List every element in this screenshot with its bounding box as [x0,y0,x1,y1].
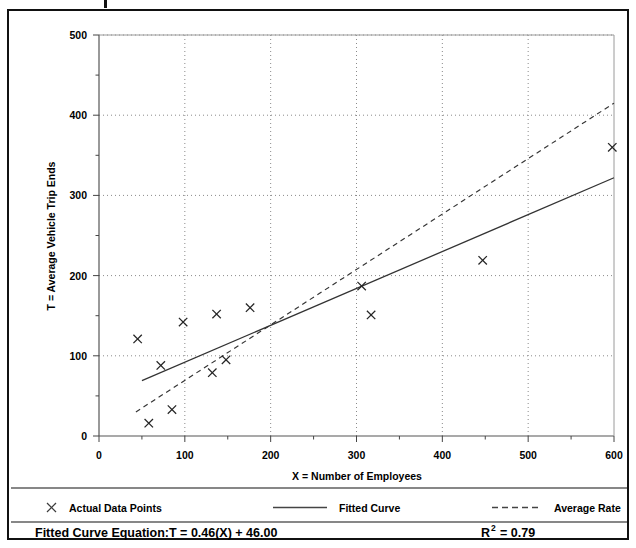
y-axis-title: T = Average Vehicle Trip Ends [45,161,57,310]
x-tick-label: 300 [348,449,366,461]
y-tick-label: 0 [81,430,87,442]
x-tick-label: 100 [176,449,194,461]
r-squared-value: = 0.79 [500,526,535,540]
legend-item-fitted-curve: Fitted Curve [273,502,400,514]
legend-label-average-rate: Average Rate [554,502,621,514]
y-tick-label: 100 [69,350,87,362]
fitted-curve-equation-value: T = 0.46(X) + 46.00 [169,526,277,540]
x-tick-label: 500 [519,449,537,461]
x-axis-title: X = Number of Employees [292,470,422,482]
scatter-plot-svg: 0100200300400500600 0100200300400500 T =… [9,11,631,542]
y-axis-tick-labels: 0100200300400500 [69,29,87,442]
x-tick-label: 400 [434,449,452,461]
r-squared-exponent: 2 [491,523,496,533]
legend-label-actual-data-points: Actual Data Points [69,502,162,514]
legend-label-fitted-curve: Fitted Curve [339,502,400,514]
legend-item-actual-data-points: Actual Data Points [47,502,162,514]
x-axis-tick-labels: 0100200300400500600 [96,449,623,461]
x-axis-ticks [99,436,614,442]
chart-canvas: 0100200300400500600 0100200300400500 T =… [9,11,631,542]
fitted-curve-equation-label: Fitted Curve Equation: [35,526,169,540]
x-tick-label: 200 [262,449,280,461]
page-scan-artifact [104,0,107,8]
x-tick-label: 0 [96,449,102,461]
y-tick-label: 300 [69,189,87,201]
r-squared-annotation: R 2 = 0.79 [481,523,535,540]
x-tick-label: 600 [605,449,623,461]
y-tick-label: 400 [69,109,87,121]
chart-frame: 0100200300400500600 0100200300400500 T =… [7,9,629,540]
r-squared-label: R [481,526,490,540]
x-marker-icon [47,503,56,512]
y-axis-ticks [93,35,99,436]
y-tick-label: 200 [69,270,87,282]
y-tick-label: 500 [69,29,87,41]
legend-item-average-rate: Average Rate [492,502,621,514]
